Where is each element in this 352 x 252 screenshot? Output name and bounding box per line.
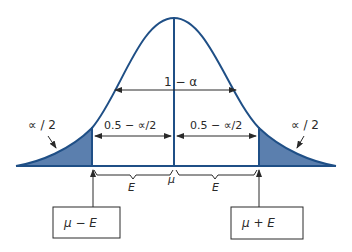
- upper-bound-label: μ + E: [241, 216, 275, 230]
- normal-curve-diagram: 1 − α 0.5 − ∝/2 0.5 − ∝/2 ∝ / 2 ∝ / 2 μ …: [0, 0, 352, 252]
- left-tail-label: ∝ / 2: [28, 118, 56, 132]
- left-margin-brace: [94, 170, 173, 179]
- left-tail-area: [16, 128, 92, 166]
- left-tail-pointer: [48, 136, 56, 148]
- right-tail-pointer: [297, 136, 304, 148]
- left-inner-label: 0.5 − ∝/2: [104, 119, 156, 132]
- mean-label: μ: [167, 173, 175, 186]
- bell-curve: [16, 18, 336, 166]
- center-area-label: 1 − α: [164, 75, 197, 89]
- right-margin-label: E: [212, 181, 219, 194]
- lower-bound-label: μ − E: [63, 216, 97, 230]
- left-margin-label: E: [128, 181, 135, 194]
- right-margin-brace: [176, 170, 257, 179]
- right-tail-label: ∝ / 2: [291, 118, 319, 132]
- right-inner-label: 0.5 − ∝/2: [190, 119, 242, 132]
